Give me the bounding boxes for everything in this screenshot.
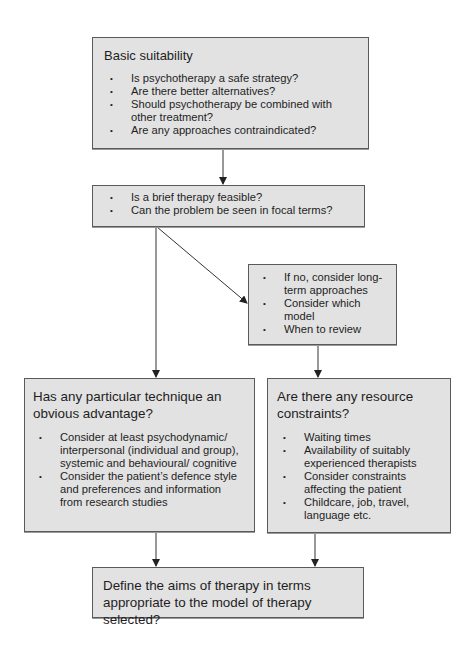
list-item: Are any approaches contraindicated? <box>104 124 358 137</box>
box-resource-constraints: Are there any resource constraints? Wait… <box>267 378 451 533</box>
box-define-aims: Define the aims of therapy in terms appr… <box>92 567 364 618</box>
list-item: Can the problem be seen in focal terms? <box>104 204 354 217</box>
list-item: Consider constraints affecting the patie… <box>277 470 444 496</box>
arrow-brief-to-longterm <box>157 227 247 303</box>
list-item: Should psychotherapy be combined with ot… <box>104 98 358 124</box>
box-title: Basic suitability <box>104 48 358 64</box>
list-item: When to review <box>257 323 388 336</box>
list-item: Waiting times <box>277 431 444 444</box>
box-long-term: If no, consider long-term approaches Con… <box>248 264 397 345</box>
list-item: Is psychotherapy a safe strategy? <box>104 72 358 85</box>
box-title: Define the aims of therapy in terms appr… <box>103 577 355 628</box>
list-item: Consider at least psychodynamic/ interpe… <box>33 431 246 470</box>
box-technique-advantage: Has any particular technique an obvious … <box>24 378 255 532</box>
list-item: If no, consider long-term approaches <box>257 271 388 297</box>
list-item: Availability of suitably experienced the… <box>277 444 444 470</box>
list-item: Are there better alternatives? <box>104 85 358 98</box>
list-item: Consider the patient’s defence style and… <box>33 470 246 509</box>
list-item: Childcare, job, travel, language etc. <box>277 496 444 522</box>
list-item: Consider which model <box>257 297 388 323</box>
box-brief-therapy: Is a brief therapy feasible? Can the pro… <box>92 185 365 227</box>
box-title: Are there any resource constraints? <box>277 388 444 422</box>
list-item: Is a brief therapy feasible? <box>104 191 354 204</box>
box-basic-suitability: Basic suitability Is psychotherapy a saf… <box>92 37 369 149</box>
box-title: Has any particular technique an obvious … <box>33 388 246 422</box>
